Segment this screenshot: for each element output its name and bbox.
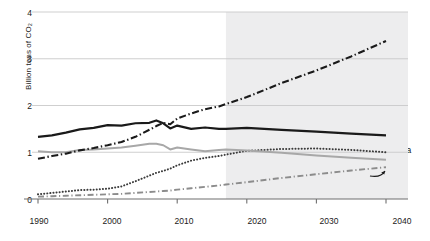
chart-container: Billion tons of CO₂ 4 3 2 1 0 1990 2000 … [0, 0, 430, 241]
chart-plot-svg [0, 0, 430, 241]
axis-lines-layer [24, 199, 408, 204]
